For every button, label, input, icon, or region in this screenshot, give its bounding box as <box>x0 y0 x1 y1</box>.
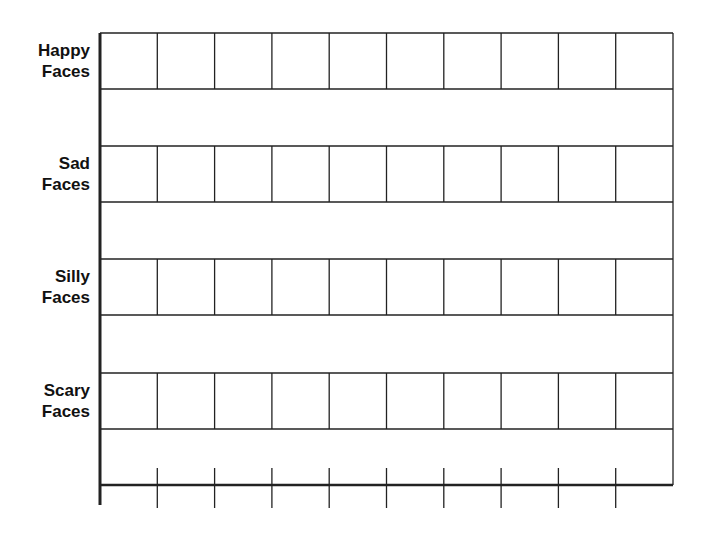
row-label-silly-faces: Silly Faces <box>0 266 90 308</box>
row-label-happy-faces: Happy Faces <box>0 40 90 82</box>
row-label-line: Faces <box>0 61 90 82</box>
row-label-scary-faces: Scary Faces <box>0 380 90 422</box>
row-label-line: Scary <box>0 380 90 401</box>
row-label-line: Sad <box>0 153 90 174</box>
row-label-line: Faces <box>0 287 90 308</box>
row-label-line: Silly <box>0 266 90 287</box>
pictograph-worksheet: Happy Faces Sad Faces Silly Faces Scary … <box>0 0 703 534</box>
pictograph-grid <box>0 0 703 534</box>
row-label-sad-faces: Sad Faces <box>0 153 90 195</box>
row-label-line: Faces <box>0 401 90 422</box>
row-label-line: Happy <box>0 40 90 61</box>
row-label-line: Faces <box>0 174 90 195</box>
